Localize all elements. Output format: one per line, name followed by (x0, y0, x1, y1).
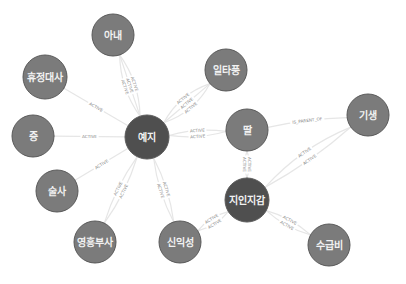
relationship-edge[interactable]: ACTIVE (265, 126, 352, 187)
node-label: 신익성 (167, 236, 194, 248)
node-label: 수급비 (316, 239, 343, 251)
node-label: 딸 (243, 125, 253, 136)
graph-node-sugeupbi[interactable]: 수급비 (308, 224, 350, 266)
edge-label: ACTIVE (190, 133, 206, 139)
graph-node-yeongheung[interactable]: 영흥부사 (74, 221, 116, 263)
node-label: 아내 (104, 29, 122, 41)
graph-node-ttal[interactable]: 딸 (226, 109, 268, 151)
edge-label: ACTIVE (190, 127, 206, 133)
edge-label: IS_PARENT_OF (292, 116, 323, 125)
node-label: 예지 (138, 131, 156, 143)
node-label: 휴정대사 (27, 71, 64, 83)
relationship-edge[interactable]: ACTIVE (103, 157, 137, 224)
graph-node-sulsa[interactable]: 술사 (36, 170, 78, 212)
relationship-edge[interactable]: ACTIVE (53, 134, 125, 139)
relationship-edge[interactable]: ACTIVE (164, 83, 211, 123)
graph-node-sinikseong[interactable]: 신익성 (159, 221, 201, 263)
node-label: 일타풍 (213, 64, 240, 76)
relationship-edge[interactable]: ACTIVE (154, 158, 175, 223)
relationship-edge[interactable]: ACTIVE (63, 87, 128, 126)
edges-layer: ACTIVEACTIVEACTIVEACTIVEACTIVEACTIVEACTI… (53, 54, 352, 236)
node-label: 기생 (359, 109, 377, 121)
relationship-edge[interactable]: ACTIVE (266, 211, 311, 236)
graph-node-jiin[interactable]: 지인지감 (225, 178, 269, 222)
graph-node-yeji[interactable]: 예지 (125, 115, 169, 159)
edge-label: ACTIVE (94, 158, 110, 170)
graph-canvas[interactable]: ACTIVEACTIVEACTIVEACTIVEACTIVEACTIVEACTI… (0, 0, 406, 284)
node-label: 술사 (48, 185, 67, 197)
graph-node-iltapung[interactable]: 일타풍 (205, 49, 247, 91)
relationship-edge[interactable]: ACTIVE (242, 151, 248, 179)
node-label: 지인지감 (229, 194, 266, 206)
graph-node-anae[interactable]: 아내 (92, 14, 134, 56)
graph-node-jeung[interactable]: 증 (12, 115, 54, 157)
relationship-edge[interactable]: ACTIVE (74, 148, 128, 181)
node-label: 증 (29, 131, 38, 142)
graph-node-gisaeng[interactable]: 기생 (347, 94, 389, 136)
edge-label: ACTIVE (82, 134, 97, 139)
edge-label: ACTIVE (242, 157, 247, 172)
edge-label: ACTIVE (88, 101, 104, 113)
graph-node-hyujeong[interactable]: 휴정대사 (23, 55, 67, 99)
relationship-edge[interactable]: IS_PARENT_OF (268, 116, 348, 128)
node-label: 영흥부사 (77, 236, 114, 248)
